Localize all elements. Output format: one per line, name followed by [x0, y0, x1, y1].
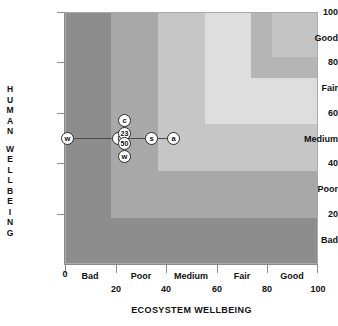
y-tick-label-20: 20 [298, 210, 338, 219]
y-axis-title-letter-g: G [2, 228, 18, 239]
x-tick-label-100: 100 [303, 285, 333, 294]
y-category-label-good: Good [298, 34, 338, 43]
y-axis-title-letter-h: H [2, 84, 18, 95]
x-category-label-bad: Bad [62, 272, 118, 281]
y-tick-mark-40 [57, 163, 65, 164]
x-category-label-poor: Poor [113, 272, 169, 281]
data-point-w-lower[interactable]: w [118, 150, 131, 163]
y-axis-title: H U M A N W E L L B E I N G [2, 84, 18, 238]
barometer-of-sustainability-chart: 100 80 60 40 20 Good Fair Medium Poor Ba… [0, 0, 338, 326]
y-category-label-poor: Poor [298, 185, 338, 194]
y-axis-title-letter-e1: E [2, 154, 18, 165]
data-point-a[interactable]: a [167, 132, 180, 145]
x-axis-title: ECOSYSTEM WELLBEING [65, 305, 318, 315]
y-tick-mark-20 [57, 214, 65, 215]
y-axis-title-letter-e2: E [2, 196, 18, 207]
y-axis-title-letter-n2: N [2, 217, 18, 228]
y-axis-title-letter-w: W [2, 144, 18, 155]
y-category-label-fair: Fair [298, 84, 338, 93]
y-tick-mark-80 [57, 62, 65, 63]
y-axis-title-letter-b: B [2, 186, 18, 197]
x-tick-label-20: 20 [101, 285, 131, 294]
y-axis-title-letter-n: N [2, 126, 18, 137]
x-category-label-good: Good [264, 272, 320, 281]
y-tick-label-60: 60 [298, 109, 338, 118]
x-category-label-fair: Fair [214, 272, 270, 281]
x-axis-line [64, 264, 318, 265]
y-category-label-bad: Bad [298, 236, 338, 245]
x-tick-label-60: 60 [202, 285, 232, 294]
data-point-w-left[interactable]: w [61, 132, 74, 145]
x-category-label-medium: Medium [163, 272, 219, 281]
data-point-c[interactable]: c [118, 114, 131, 127]
connector-w-to-l [68, 138, 118, 139]
y-axis-title-letter-m: M [2, 105, 18, 116]
y-axis-title-letter-a: A [2, 116, 18, 127]
y-tick-label-40: 40 [298, 159, 338, 168]
y-axis-title-word-gap [2, 137, 18, 144]
y-axis-title-letter-i: I [2, 207, 18, 218]
data-point-50[interactable]: 50 [118, 137, 131, 150]
y-axis-title-letter-l2: L [2, 175, 18, 186]
y-tick-mark-60 [57, 113, 65, 114]
x-tick-label-40: 40 [151, 285, 181, 294]
y-axis-title-letter-u: U [2, 95, 18, 106]
y-tick-mark-100 [57, 12, 65, 13]
y-category-label-medium: Medium [298, 135, 338, 144]
data-point-s[interactable]: s [145, 132, 158, 145]
y-tick-label-80: 80 [298, 58, 338, 67]
y-axis-title-letter-l1: L [2, 165, 18, 176]
x-tick-label-80: 80 [252, 285, 282, 294]
y-tick-label-100: 100 [298, 8, 338, 17]
